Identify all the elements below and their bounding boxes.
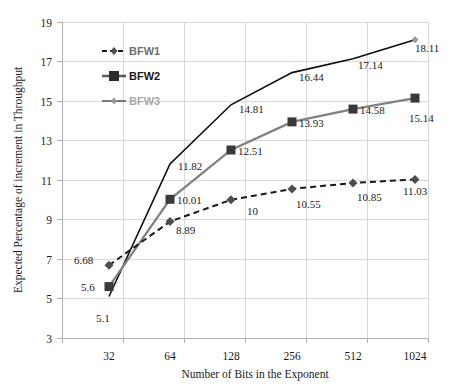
x-axis-title: Number of Bits in the Exponent (181, 368, 329, 381)
x-tick-label: 32 (103, 350, 115, 362)
legend-item-bfw2[interactable]: BFW2 (102, 70, 160, 82)
y-axis-ticks (57, 22, 62, 338)
y-tick-label: 11 (41, 175, 52, 187)
x-tick-label: 64 (164, 350, 176, 362)
x-axis-tick-labels: 32 64 128 256 512 1024 (103, 350, 427, 362)
data-point-marker (227, 195, 236, 204)
y-tick-label: 3 (46, 333, 52, 345)
data-point-marker (288, 117, 297, 126)
y-tick-label: 17 (41, 56, 53, 68)
data-label-bfw3: 11.82 (178, 160, 202, 172)
data-point-marker (411, 94, 420, 103)
legend-marker-diamond-icon (111, 98, 117, 105)
y-tick-label: 7 (46, 254, 52, 266)
x-tick-label: 512 (344, 350, 362, 362)
data-label-bfw2: 15.14 (409, 112, 434, 124)
data-label-bfw3: 14.81 (239, 103, 264, 115)
data-point-marker (411, 175, 420, 184)
legend-label-bfw3: BFW3 (129, 95, 160, 107)
chart-legend: BFW1 BFW2 BFW3 (102, 45, 160, 107)
data-label-bfw3: 18.11 (415, 42, 439, 54)
legend-label-bfw1: BFW1 (129, 45, 160, 57)
data-label-bfw2: 14.58 (360, 104, 385, 116)
data-label-bfw3: 16.44 (299, 71, 324, 83)
data-label-bfw2: 12.51 (238, 145, 263, 157)
line-chart: 19 17 15 13 11 9 7 5 3 32 64 128 256 512… (0, 0, 459, 392)
data-point-marker (105, 282, 114, 291)
x-tick-label: 256 (283, 350, 301, 362)
data-label-bfw1: 11.03 (403, 185, 428, 197)
data-label-bfw2: 13.93 (299, 117, 324, 129)
data-label-bfw1: 8.89 (176, 224, 196, 236)
data-label-bfw1: 6.68 (74, 254, 94, 266)
y-tick-label: 9 (46, 214, 52, 226)
y-tick-label: 15 (41, 96, 53, 108)
y-tick-label: 5 (46, 293, 52, 305)
x-tick-label: 128 (222, 350, 240, 362)
legend-marker-square-icon (109, 71, 119, 81)
data-label-bfw3: 17.14 (358, 59, 383, 71)
data-label-bfw2: 5.6 (81, 281, 95, 293)
data-point-marker (349, 105, 358, 114)
data-label-bfw1: 10.55 (296, 198, 321, 210)
chart-container: 19 17 15 13 11 9 7 5 3 32 64 128 256 512… (0, 0, 459, 392)
x-tick-label: 1024 (404, 350, 427, 362)
legend-item-bfw1[interactable]: BFW1 (102, 45, 160, 57)
data-label-bfw2: 10.01 (177, 194, 202, 206)
data-label-bfw1: 10.85 (357, 191, 382, 203)
y-tick-label: 19 (41, 17, 53, 29)
data-point-marker (227, 146, 236, 155)
data-label-bfw1: 10 (247, 205, 259, 217)
legend-marker-diamond-icon (111, 47, 118, 55)
y-axis-tick-labels: 19 17 15 13 11 9 7 5 3 (41, 17, 53, 345)
legend-item-bfw3[interactable]: BFW3 (102, 95, 160, 107)
y-axis-title: Expected Percentage of increment in Thro… (12, 66, 25, 293)
y-tick-label: 13 (41, 135, 53, 147)
data-point-marker (166, 195, 175, 204)
data-label-bfw3: 5.1 (96, 312, 110, 324)
legend-label-bfw2: BFW2 (129, 70, 160, 82)
x-axis-ticks (62, 338, 428, 343)
data-point-marker (288, 184, 297, 193)
